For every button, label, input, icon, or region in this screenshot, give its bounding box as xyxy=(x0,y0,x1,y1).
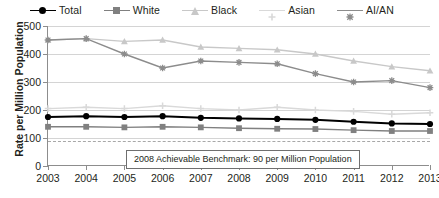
data-point xyxy=(159,65,166,72)
legend-label: AI/AN xyxy=(366,4,394,16)
x-axis-tick-label: 2004 xyxy=(75,173,98,184)
data-point xyxy=(121,51,128,58)
series-ai-an xyxy=(45,35,434,91)
data-point xyxy=(427,128,433,134)
data-point xyxy=(121,105,128,112)
legend-item-black[interactable]: Black xyxy=(182,4,237,16)
data-point xyxy=(198,58,205,65)
x-axis-tick xyxy=(430,165,431,170)
legend-item-ai-an[interactable]: AI/AN xyxy=(337,4,394,16)
legend-marker-square xyxy=(104,5,130,16)
legend-label: White xyxy=(133,4,160,16)
series-line xyxy=(48,39,430,71)
data-point xyxy=(274,104,281,111)
data-point xyxy=(427,84,434,91)
data-point xyxy=(274,61,281,68)
data-point xyxy=(198,115,204,121)
benchmark-annotation: 2008 Achievable Benchmark: 90 per Millio… xyxy=(126,150,360,169)
y-axis-tick-label: 200 xyxy=(23,105,41,116)
data-point xyxy=(83,113,89,119)
series-black xyxy=(45,35,434,73)
data-point xyxy=(122,124,128,130)
data-point xyxy=(159,103,166,110)
series-total xyxy=(45,113,433,127)
chart-container: TotalWhiteBlackAsianAI/AN Rate per Milli… xyxy=(0,0,439,198)
x-axis-tick-label: 2003 xyxy=(36,173,59,184)
series-layer xyxy=(48,26,430,166)
data-point xyxy=(160,113,166,119)
y-axis-tick-label: 100 xyxy=(23,133,41,144)
data-point xyxy=(351,119,357,125)
data-point xyxy=(198,124,204,130)
legend-label: Total xyxy=(59,4,82,16)
data-point xyxy=(236,115,242,121)
series-asian xyxy=(45,103,434,118)
y-axis-tick-label: 400 xyxy=(23,49,41,60)
data-point xyxy=(198,105,205,112)
x-axis-tick-label: 2006 xyxy=(151,173,174,184)
legend-marker-plus xyxy=(259,5,285,16)
data-point xyxy=(83,104,90,111)
x-axis-tick-label: 2010 xyxy=(304,173,327,184)
data-point xyxy=(274,126,280,132)
data-point xyxy=(236,107,243,114)
legend-marker-circle xyxy=(30,5,56,16)
data-point xyxy=(274,116,280,122)
data-point xyxy=(83,124,89,130)
benchmark-line xyxy=(48,141,430,142)
x-axis-tick-label: 2012 xyxy=(380,173,403,184)
data-point xyxy=(236,59,243,66)
data-point xyxy=(313,126,319,132)
y-axis-tick-label: 500 xyxy=(23,21,41,32)
data-point xyxy=(312,107,319,114)
series-white xyxy=(45,124,433,134)
x-axis-tick-label: 2013 xyxy=(418,173,439,184)
data-point xyxy=(45,124,51,130)
x-axis-tick-label: 2011 xyxy=(342,173,365,184)
plot-area: 5004003002001000 20032004200520062007200… xyxy=(47,26,429,166)
data-point xyxy=(427,110,434,117)
data-point xyxy=(160,124,166,130)
data-point xyxy=(350,79,357,86)
data-point xyxy=(236,125,242,131)
legend-item-asian[interactable]: Asian xyxy=(259,4,315,16)
data-point xyxy=(389,111,396,118)
legend-marker-cross xyxy=(337,5,363,16)
data-point xyxy=(389,77,396,84)
y-axis-tick-label: 300 xyxy=(23,77,41,88)
y-axis-tick-label: 0 xyxy=(35,161,41,172)
chart-legend: TotalWhiteBlackAsianAI/AN xyxy=(30,2,435,18)
x-axis-tick-label: 2008 xyxy=(227,173,250,184)
data-point xyxy=(312,117,318,123)
data-point xyxy=(83,35,90,42)
legend-label: Black xyxy=(211,4,237,16)
data-point xyxy=(350,108,357,115)
x-axis-tick-label: 2007 xyxy=(189,173,212,184)
data-point xyxy=(45,114,51,120)
data-point xyxy=(389,128,395,134)
x-axis-tick-label: 2005 xyxy=(113,173,136,184)
data-point xyxy=(427,121,433,127)
data-point xyxy=(351,127,357,133)
legend-item-total[interactable]: Total xyxy=(30,4,82,16)
legend-marker-triangle xyxy=(182,5,208,16)
data-point xyxy=(389,120,395,126)
x-axis-tick-label: 2009 xyxy=(266,173,289,184)
legend-item-white[interactable]: White xyxy=(104,4,160,16)
data-point xyxy=(312,70,319,77)
data-point xyxy=(45,37,52,44)
data-point xyxy=(121,114,127,120)
legend-label: Asian xyxy=(288,4,315,16)
